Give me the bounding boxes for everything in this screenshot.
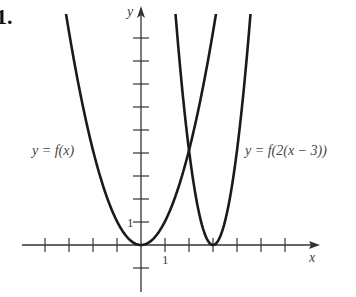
x-axis bbox=[22, 238, 320, 252]
y-axis-label: y bbox=[125, 4, 134, 19]
x-axis-label: x bbox=[308, 250, 316, 265]
x-tick-label-1: 1 bbox=[162, 252, 169, 267]
problem-number: 1. bbox=[0, 4, 13, 29]
y-tick-label-1: 1 bbox=[127, 215, 134, 230]
y-axis bbox=[133, 6, 149, 292]
curve-g-label: y = f(2(x − 3)) bbox=[243, 143, 327, 159]
graph: 1. y x 1 1 y = f(x) y = f(2(x − 3)) bbox=[0, 0, 356, 297]
curve-f-label: y = f(x) bbox=[30, 143, 74, 159]
